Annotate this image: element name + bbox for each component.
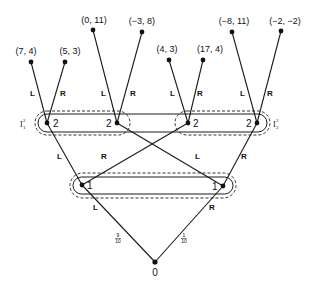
action-label-L: L	[30, 89, 35, 98]
player1-action-labels: L R L R	[57, 152, 247, 161]
edge-p2b-R	[117, 32, 142, 123]
player1-node-left	[80, 183, 85, 188]
edge-chance-R	[155, 186, 223, 262]
probability-L-denominator: 10	[115, 238, 121, 244]
action-label-R: R	[130, 89, 136, 98]
terminal-node-7	[230, 30, 235, 35]
payoff-1: (7, 4)	[15, 46, 36, 56]
payoff-5: (4, 3)	[156, 44, 177, 54]
player2-information-sets	[35, 111, 270, 135]
infoset-labels: I 2 1 I 2 2	[20, 118, 279, 130]
infoset-I2-2-sub: 2	[276, 125, 279, 130]
chance-action-labels: L R	[93, 203, 215, 212]
payoff-7: (−8, 11)	[219, 16, 250, 26]
infoset-I2-2-sup: 2	[276, 118, 279, 123]
player1-node-right	[221, 184, 226, 189]
player2-solid-infoset-outline	[38, 114, 267, 132]
edge-p2d-L	[232, 32, 257, 123]
terminal-node-6	[201, 58, 206, 63]
player1-solid-infoset-outline	[73, 177, 233, 194]
edge-chance-L	[82, 185, 155, 262]
terminal-node-3	[91, 28, 96, 33]
terminal-node-8	[279, 29, 284, 34]
action-label-R: R	[267, 89, 273, 98]
edge-p2b-L	[93, 30, 117, 123]
player1-label-right: 1	[212, 181, 218, 192]
player2-action-labels: L R L R L R L R	[30, 89, 273, 98]
edge-p2d-R	[257, 31, 281, 123]
payoff-2: (5, 3)	[59, 46, 80, 56]
infoset-I1-2-sub: 1	[23, 125, 26, 130]
action-label-L: L	[57, 152, 62, 161]
terminal-node-2	[63, 60, 68, 65]
action-label-L: L	[195, 152, 200, 161]
payoff-8: (−2, −2)	[269, 16, 301, 26]
player2-node-2	[115, 121, 120, 126]
payoff-3: (0, 11)	[81, 15, 106, 25]
infoset-I1-2-sup: 2	[23, 118, 26, 123]
action-label-L: L	[93, 203, 98, 212]
player2-label-2: 2	[106, 118, 112, 129]
terminal-node-1	[29, 60, 34, 65]
action-label-L: L	[170, 89, 175, 98]
action-label-L: L	[101, 89, 106, 98]
root-node	[152, 259, 157, 264]
action-label-R: R	[101, 152, 107, 161]
payoff-4: (−3, 8)	[129, 16, 155, 26]
action-label-R: R	[60, 89, 66, 98]
player2-node-4	[255, 121, 260, 126]
player2-label-4: 2	[246, 118, 252, 129]
action-label-R: R	[209, 203, 215, 212]
game-tree-diagram: (7, 4) (5, 3) (0, 11) (−3, 8) (4, 3) (17…	[0, 0, 317, 290]
chance-edges	[82, 185, 223, 262]
payoff-labels: (7, 4) (5, 3) (0, 11) (−3, 8) (4, 3) (17…	[15, 15, 300, 56]
payoff-6: (17, 4)	[197, 44, 223, 54]
root-label: 0	[152, 267, 158, 278]
action-label-R: R	[197, 89, 203, 98]
terminal-node-4	[140, 30, 145, 35]
action-label-R: R	[241, 152, 247, 161]
player2-node-3	[186, 121, 191, 126]
player2-label-3: 2	[193, 118, 199, 129]
probability-R-denominator: 10	[181, 238, 187, 244]
player2-label-1: 2	[53, 118, 59, 129]
player2-node-1	[45, 121, 50, 126]
terminal-node-5	[167, 58, 172, 63]
player1-label-left: 1	[87, 180, 93, 191]
action-label-L: L	[240, 89, 245, 98]
